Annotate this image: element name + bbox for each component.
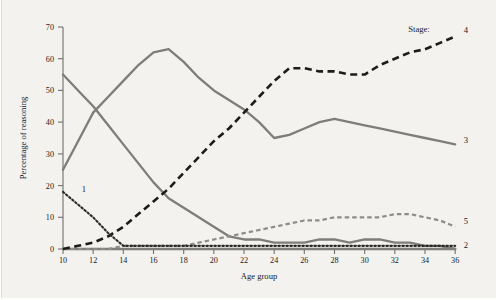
x-tick-label-18: 18 bbox=[180, 256, 188, 265]
figure-page: 0 10 20 30 40 50 60 70 10 12 14 16 18 20… bbox=[0, 0, 496, 300]
x-tick-label-14: 14 bbox=[119, 256, 127, 265]
x-tick-label-12: 12 bbox=[89, 256, 97, 265]
x-tick-label-20: 20 bbox=[210, 256, 218, 265]
x-tick-label-36: 36 bbox=[451, 256, 459, 265]
x-tick-label-24: 24 bbox=[270, 256, 278, 265]
y-tick-label-10: 10 bbox=[46, 213, 54, 222]
x-tick-label-16: 16 bbox=[149, 256, 157, 265]
x-tick-labels: 10 12 14 16 18 20 22 24 26 28 30 32 34 3… bbox=[59, 256, 459, 265]
y-tick-label-20: 20 bbox=[46, 182, 54, 191]
x-tick-label-10: 10 bbox=[59, 256, 67, 265]
y-axis-title: Percentage of reasoning bbox=[18, 96, 28, 179]
series-label-4: 4 bbox=[464, 25, 469, 35]
y-tick-label-0: 0 bbox=[50, 245, 54, 254]
y-tick-label-50: 50 bbox=[46, 86, 54, 95]
x-tick-label-32: 32 bbox=[391, 256, 399, 265]
x-axis-title: Age group bbox=[241, 271, 278, 281]
x-tick-label-30: 30 bbox=[361, 256, 369, 265]
series-group bbox=[63, 37, 455, 249]
x-tick-label-34: 34 bbox=[421, 256, 429, 265]
series-label-5: 5 bbox=[464, 216, 468, 226]
y-tick-label-40: 40 bbox=[46, 118, 54, 127]
line-chart: 0 10 20 30 40 50 60 70 10 12 14 16 18 20… bbox=[0, 0, 496, 300]
series-label-2: 2 bbox=[464, 240, 468, 250]
x-tick-label-26: 26 bbox=[300, 256, 308, 265]
y-tick-marks bbox=[58, 27, 63, 249]
series-line-2-descending bbox=[63, 75, 455, 249]
series-label-1: 1 bbox=[82, 184, 86, 194]
y-tick-label-60: 60 bbox=[46, 55, 54, 64]
y-tick-label-30: 30 bbox=[46, 150, 54, 159]
y-tick-labels: 0 10 20 30 40 50 60 70 bbox=[46, 23, 54, 254]
series-line-1 bbox=[63, 192, 455, 246]
y-tick-label-70: 70 bbox=[46, 23, 54, 32]
series-line-3 bbox=[63, 49, 455, 170]
x-tick-label-28: 28 bbox=[330, 256, 338, 265]
series-label-3: 3 bbox=[464, 135, 468, 145]
stage-caption: Stage: bbox=[408, 24, 429, 34]
x-tick-label-22: 22 bbox=[240, 256, 248, 265]
